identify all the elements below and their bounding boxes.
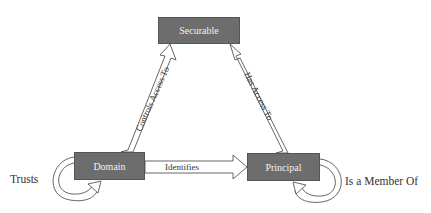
node-domain: Domain xyxy=(74,152,145,180)
diagram-canvas: Controls Access To Has Access To Identif… xyxy=(0,0,431,213)
edge-controls-access-to: Controls Access To xyxy=(121,44,176,152)
edge-identifies: Identifies xyxy=(145,155,247,179)
edge-label-has-access-to: Has Access To xyxy=(242,70,275,122)
edge-has-access-to: Has Access To xyxy=(230,44,288,153)
node-label-principal: Principal xyxy=(265,162,301,173)
edge-label-identifies: Identifies xyxy=(165,162,199,172)
label-is-a-member-of: Is a Member Of xyxy=(345,175,418,187)
node-securable: Securable xyxy=(158,17,240,44)
label-trusts: Trusts xyxy=(10,173,38,185)
node-label-securable: Securable xyxy=(179,25,218,36)
node-principal: Principal xyxy=(247,153,320,181)
edge-label-controls-access-to: Controls Access To xyxy=(134,65,172,133)
node-label-domain: Domain xyxy=(93,161,125,172)
